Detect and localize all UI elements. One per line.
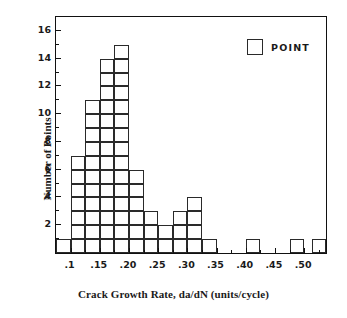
plot-area: POINT	[55, 16, 327, 254]
x-axis-tick	[71, 248, 72, 253]
histogram-bar-cell	[173, 225, 188, 239]
histogram-bar-cell	[173, 239, 188, 253]
histogram-bar	[114, 45, 129, 253]
histogram-bar	[129, 170, 144, 253]
histogram-bar-cell	[100, 156, 115, 170]
histogram-bar-cell	[100, 114, 115, 128]
histogram-bar-cell	[129, 225, 144, 239]
histogram-bar-cell	[71, 156, 86, 170]
y-axis-tick	[56, 113, 61, 114]
histogram-figure: Number of Points POINT 246810121416 .1.1…	[0, 0, 347, 318]
y-axis-minor-tick	[56, 183, 59, 184]
y-axis-minor-tick	[56, 44, 59, 45]
histogram-bar-cell	[246, 239, 261, 253]
y-axis-tick	[56, 30, 61, 31]
y-axis-tick	[56, 196, 61, 197]
histogram-bar-cell	[129, 211, 144, 225]
legend-label-point: POINT	[271, 42, 310, 53]
histogram-bar-cell	[100, 73, 115, 87]
histogram-bar-cell	[100, 100, 115, 114]
histogram-bar	[187, 197, 202, 253]
histogram-bar	[100, 59, 115, 253]
histogram-bar	[144, 211, 159, 253]
histogram-bar	[71, 156, 86, 253]
x-axis-minor-tick	[173, 250, 174, 253]
histogram-bar	[85, 100, 100, 253]
histogram-bar-cell	[114, 86, 129, 100]
x-axis-minor-tick	[260, 250, 261, 253]
histogram-bar	[202, 239, 217, 253]
y-axis-tick-label: 2	[44, 218, 51, 229]
histogram-bar-cell	[114, 128, 129, 142]
histogram-bar-cell	[71, 197, 86, 211]
x-axis-minor-tick	[85, 250, 86, 253]
histogram-bar-cell	[71, 225, 86, 239]
histogram-bar-cell	[114, 170, 129, 184]
histogram-bar-cell	[129, 239, 144, 253]
histogram-bar-cell	[100, 184, 115, 198]
histogram-bar-cell	[100, 170, 115, 184]
x-axis-tick	[275, 248, 276, 253]
histogram-bar-cell	[187, 197, 202, 211]
y-axis-tick-label: 14	[38, 52, 51, 63]
histogram-bar-cell	[71, 211, 86, 225]
histogram-bar	[173, 211, 188, 253]
histogram-bar-cell	[85, 170, 100, 184]
x-axis-minor-tick	[114, 250, 115, 253]
histogram-bar-cell	[158, 239, 173, 253]
y-axis-minor-tick	[56, 238, 59, 239]
histogram-bar-cell	[173, 211, 188, 225]
histogram-bar-cell	[129, 170, 144, 184]
x-axis-tick	[217, 248, 218, 253]
x-axis-minor-tick	[202, 250, 203, 253]
histogram-bar-cell	[100, 239, 115, 253]
x-axis-minor-tick	[144, 250, 145, 253]
histogram-bar-cell	[187, 225, 202, 239]
histogram-bar-cell	[114, 197, 129, 211]
histogram-bar-cell	[85, 197, 100, 211]
y-axis-title: Number of Points	[41, 118, 53, 201]
y-axis-tick	[56, 141, 61, 142]
y-axis-tick-label: 10	[38, 107, 51, 118]
histogram-bar-cell	[100, 197, 115, 211]
y-axis-tick-label: 16	[38, 24, 51, 35]
histogram-bar-cell	[100, 211, 115, 225]
y-axis-minor-tick	[56, 16, 59, 17]
y-axis-tick-label: 8	[44, 135, 51, 146]
histogram-bar-cell	[114, 156, 129, 170]
histogram-bar-cell	[187, 211, 202, 225]
histogram-bar-cell	[202, 239, 217, 253]
histogram-bar-cell	[187, 239, 202, 253]
histogram-bar-cell	[85, 184, 100, 198]
x-axis-tick	[187, 248, 188, 253]
legend: POINT	[247, 39, 310, 55]
y-axis-tick	[56, 85, 61, 86]
y-axis-minor-tick	[56, 99, 59, 100]
histogram-bar-cell	[85, 239, 100, 253]
y-axis-tick	[56, 169, 61, 170]
histogram-bar-cell	[71, 184, 86, 198]
histogram-bar-cell	[85, 100, 100, 114]
histogram-bar-cell	[85, 156, 100, 170]
histogram-bar-cell	[100, 128, 115, 142]
y-axis-tick	[56, 224, 61, 225]
histogram-bar-cell	[144, 211, 159, 225]
histogram-bar-cell	[100, 59, 115, 73]
histogram-bar-cell	[129, 184, 144, 198]
x-axis-minor-tick	[290, 250, 291, 253]
x-axis-minor-tick	[319, 250, 320, 253]
histogram-bar-cell	[158, 225, 173, 239]
y-axis-minor-tick	[56, 155, 59, 156]
y-axis-tick-label: 6	[44, 163, 51, 174]
histogram-bar-cell	[290, 239, 305, 253]
histogram-bar-cell	[85, 211, 100, 225]
y-axis-minor-tick	[56, 127, 59, 128]
histogram-bar	[290, 239, 305, 253]
y-axis-tick-label: 12	[38, 79, 51, 90]
x-axis-tick	[246, 248, 247, 253]
y-axis-tick-label: 4	[44, 190, 51, 201]
x-axis-tick	[158, 248, 159, 253]
histogram-bar-cell	[71, 170, 86, 184]
histogram-bar	[158, 225, 173, 253]
histogram-bar-cell	[144, 239, 159, 253]
